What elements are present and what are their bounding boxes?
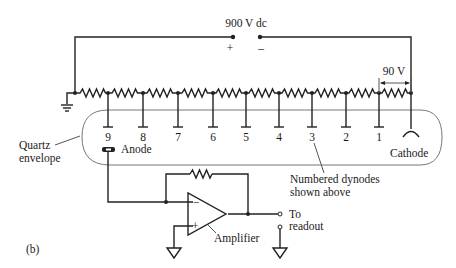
cathode-symbol [403,93,419,137]
supply-negative-terminal [258,35,262,39]
ground-symbol-output [273,248,287,258]
resistor-divider-chain [73,89,413,97]
dynode-label-6: 6 [210,131,216,143]
envelope-leader-line [55,136,80,145]
dynode-label-8: 8 [140,131,146,143]
supply-minus-sign: – [257,42,264,54]
dynode-label-7: 7 [175,131,181,143]
stage-voltage-label: 90 V [383,65,406,77]
cathode-label: Cathode [390,147,428,159]
output-label-line2: readout [289,220,324,232]
amplifier-plus-input: + [192,220,199,232]
quartz-envelope [82,110,442,165]
envelope-label-line2: envelope [19,152,61,165]
dynode-note-line1: Numbered dynodes [290,173,380,186]
supply-voltage-label: 900 V dc [225,17,267,29]
dynode-label-5: 5 [243,131,249,143]
dynode-label-3: 3 [309,131,315,143]
dynode-label-9: 9 [105,131,111,143]
envelope-label-line1: Quartz [19,139,50,151]
ground-symbol-left [61,93,75,111]
supply-positive-terminal [231,35,235,39]
dynode-label-1: 1 [376,131,382,143]
supply-wiring [75,35,411,93]
dynode-note-leader-line [314,143,324,173]
supply-plus-sign: + [227,42,234,54]
dynode-label-4: 4 [276,131,282,143]
dynode-note-line2: shown above [290,186,350,198]
photomultiplier-circuit-diagram: 900 V dc + – 90 V [0,0,456,268]
amplifier-minus-input: − [193,196,200,208]
anode-label: Anode [121,143,152,155]
ground-symbol-amplifier [167,248,181,258]
figure-part-label: (b) [26,243,40,256]
amplifier-label: Amplifier [214,232,260,245]
output-label-line1: To [289,208,301,220]
dynode-label-2: 2 [343,131,349,143]
